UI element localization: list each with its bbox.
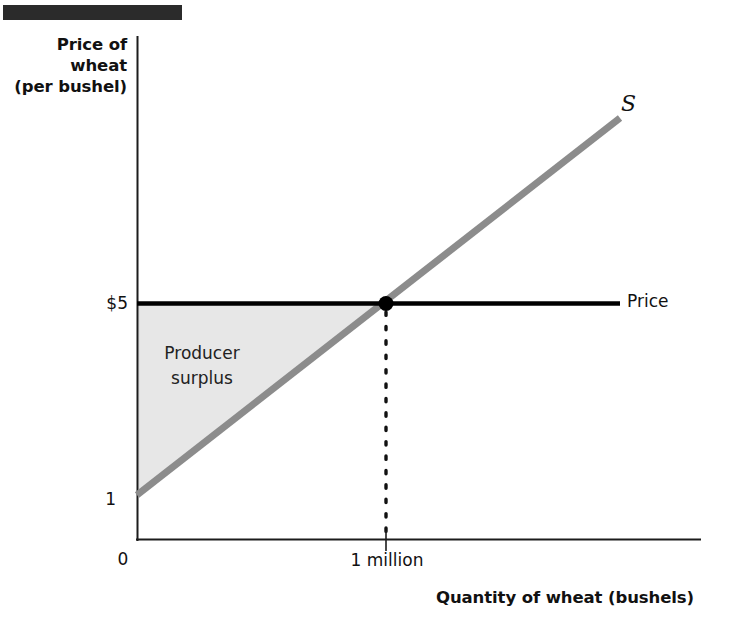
x-tick-label-origin: 0 (112, 549, 134, 569)
producer-surplus-figure: Price of wheat (per bushel) Quantity of … (0, 0, 729, 617)
y-axis-title: Price of wheat (per bushel) (0, 34, 127, 97)
y-axis-title-line-1: Price of (0, 34, 127, 55)
equilibrium-point-marker (379, 296, 394, 311)
x-tick-label-quantity: 1 million (316, 550, 458, 570)
y-tick-label-price: $5 (72, 293, 128, 313)
supply-curve-label: S (621, 91, 636, 116)
producer-surplus-label-line-1: Producer (150, 341, 254, 366)
y-axis-title-line-3: (per bushel) (0, 76, 127, 97)
x-axis-title: Quantity of wheat (bushels) (420, 588, 710, 607)
y-axis-title-line-2: wheat (0, 55, 127, 76)
producer-surplus-label-line-2: surplus (150, 366, 254, 391)
producer-surplus-label: Producer surplus (150, 341, 254, 391)
y-tick-label-min-price: 1 (72, 489, 116, 509)
price-line-label: Price (627, 291, 668, 311)
